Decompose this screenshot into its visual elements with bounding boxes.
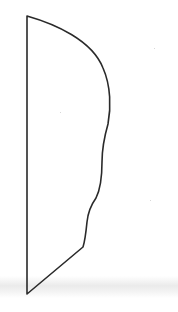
scan-speck: [150, 200, 151, 201]
profile-outline-drawing: [0, 0, 178, 312]
profile-outline: [27, 16, 110, 294]
scan-speck: [154, 48, 155, 49]
scan-speck: [60, 112, 61, 113]
